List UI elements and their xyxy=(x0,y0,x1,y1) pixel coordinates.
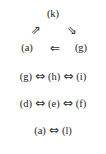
node-e: (e) xyxy=(48,98,60,109)
node-h: (h) xyxy=(48,71,60,82)
equivalence-row-d-e-f: (d)⇔(e)⇔(f) xyxy=(0,97,106,110)
node-k: (k) xyxy=(47,8,59,20)
node-f: (f) xyxy=(76,98,87,109)
iff-arrow-icon: ⇔ xyxy=(63,69,73,83)
node-a: (a) xyxy=(21,42,33,54)
equivalence-row-g-h-i: (g)⇔(h)⇔(i) xyxy=(0,70,106,83)
node-g: (g) xyxy=(20,71,32,82)
equivalence-row-a-l: (a)⇔(l) xyxy=(0,124,106,137)
implies-down-right-arrow-icon: ⇘ xyxy=(67,24,77,36)
node-i: (i) xyxy=(76,71,86,82)
node-d: (d) xyxy=(20,98,32,109)
node-a: (a) xyxy=(34,125,46,136)
node-l: (l) xyxy=(62,125,72,136)
iff-arrow-icon: ⇔ xyxy=(35,69,45,83)
iff-arrow-icon: ⇔ xyxy=(49,123,59,137)
node-g: (g) xyxy=(75,42,87,54)
implies-up-right-arrow-icon: ⇗ xyxy=(31,24,41,36)
iff-arrow-icon: ⇔ xyxy=(35,96,45,110)
iff-arrow-icon: ⇔ xyxy=(63,96,73,110)
implies-left-arrow-icon: ⇐ xyxy=(50,42,60,54)
